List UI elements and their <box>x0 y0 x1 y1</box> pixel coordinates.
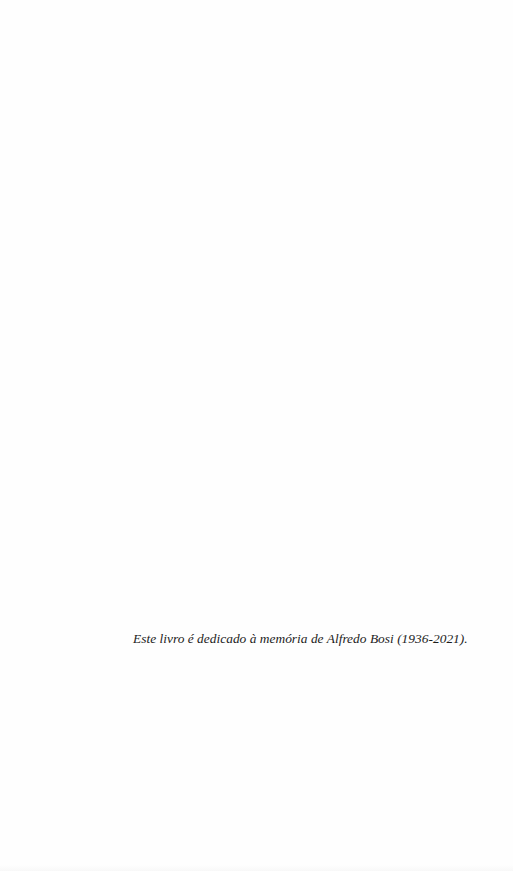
scan-edge-shading <box>0 865 513 871</box>
dedication-text: Este livro é dedicado à memória de Alfre… <box>133 630 473 648</box>
book-page: Este livro é dedicado à memória de Alfre… <box>0 0 513 871</box>
